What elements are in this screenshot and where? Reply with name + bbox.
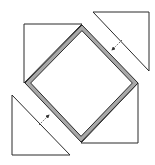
- diagram-svg: [0, 0, 155, 165]
- fold-arrow-up-right-icon: [39, 115, 49, 125]
- folding-diagram: [0, 0, 155, 165]
